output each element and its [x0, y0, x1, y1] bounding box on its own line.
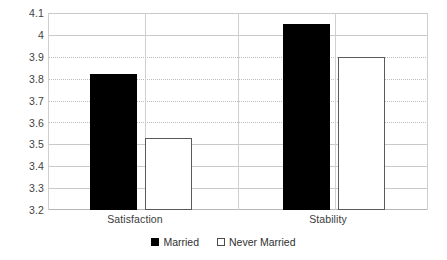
y-axis-tick-3.4: 3.4 [4, 161, 44, 172]
bar-satisfaction-married [90, 74, 137, 210]
y-axis-tick-3.8: 3.8 [4, 74, 44, 85]
bar-chart: 4.1 4 3.9 3.8 3.7 3.6 3.5 3.4 3.3 3.2 [0, 0, 447, 260]
y-axis-tick-3.3: 3.3 [4, 183, 44, 194]
y-axis-tick-3.2: 3.2 [4, 205, 44, 216]
y-axis-tick-3.7: 3.7 [4, 96, 44, 107]
legend-label-never-married: Never Married [229, 236, 296, 248]
y-axis-tick-3.9: 3.9 [4, 52, 44, 63]
y-axis-tick-3.5: 3.5 [4, 139, 44, 150]
legend-item-never-married: Never Married [217, 236, 296, 248]
x-axis-label-stability: Stability [248, 213, 408, 225]
bar-stability-never-married [338, 57, 385, 210]
category-separator-middle [238, 13, 239, 210]
category-separator-left [48, 13, 49, 210]
bar-stability-married [283, 24, 330, 210]
y-axis-tick-3.6: 3.6 [4, 118, 44, 129]
plot-area [48, 13, 428, 210]
x-axis-label-satisfaction: Satisfaction [55, 213, 215, 225]
hollow-square-icon [217, 238, 225, 246]
y-axis-tick-4: 4 [4, 30, 44, 41]
filled-square-icon [151, 238, 159, 246]
category-separator-2 [335, 13, 336, 210]
legend: Married Never Married [0, 236, 447, 248]
y-axis: 4.1 4 3.9 3.8 3.7 3.6 3.5 3.4 3.3 3.2 [0, 13, 44, 210]
category-separator-right [427, 13, 428, 210]
legend-item-married: Married [151, 236, 199, 248]
y-axis-tick-4.1: 4.1 [4, 8, 44, 19]
bar-satisfaction-never-married [145, 138, 192, 210]
legend-label-married: Married [163, 236, 199, 248]
